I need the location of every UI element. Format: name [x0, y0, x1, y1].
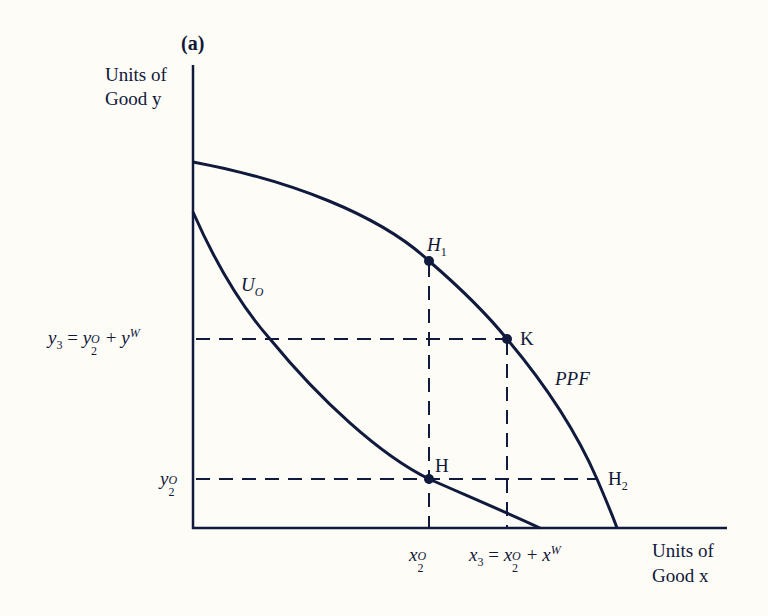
ppf-label: PPF [555, 368, 590, 389]
x2-tick-label: xO2 [409, 544, 427, 565]
panel-label: (a) [181, 33, 204, 54]
point-h1 [424, 256, 434, 266]
u0-label-sub: O [255, 285, 264, 299]
h1-label: H1 [427, 234, 447, 255]
y-axis-label-line2: Good y [105, 88, 161, 109]
point-k [502, 334, 512, 344]
h-label: H [435, 455, 449, 476]
y3-tick-label: y3 = yO2 + yW [48, 327, 140, 348]
x3-tick-label: x3 = xO2 + xW [469, 544, 561, 565]
u0-label-base: U [241, 274, 255, 295]
indifference-curve-u0 [193, 212, 540, 528]
y2-tick-label: yO2 [160, 468, 178, 489]
u0-label: UO [241, 274, 263, 295]
h2-label: H2 [608, 468, 628, 489]
x-axis-label-line2: Good x [652, 565, 708, 586]
x-axis-label-line1: Units of [652, 540, 714, 561]
point-h [424, 474, 434, 484]
y-axis-label-line1: Units of [105, 64, 167, 85]
ppf-curve [193, 162, 617, 528]
k-label: K [520, 328, 534, 349]
